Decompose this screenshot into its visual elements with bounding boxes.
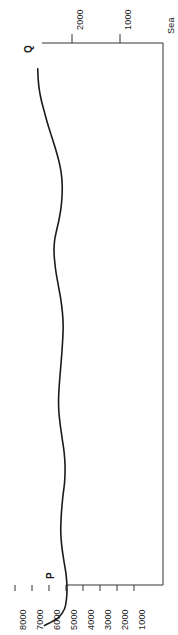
bottom-axis-label-5000: 5000 bbox=[70, 609, 79, 630]
bottom-axis bbox=[15, 585, 163, 591]
plot-canvas bbox=[0, 0, 178, 635]
sea-level-axis-label: Sea level bbox=[159, 2, 178, 36]
sea-level-label-line1: Sea bbox=[167, 17, 176, 34]
top-axis-label-2000: 2000 bbox=[76, 9, 85, 30]
bottom-axis-label-4000: 4000 bbox=[87, 609, 96, 630]
bottom-axis-label-6000: 6000 bbox=[53, 609, 62, 630]
bottom-axis-label-8000: 8000 bbox=[19, 609, 28, 630]
bottom-axis-label-1000: 1000 bbox=[138, 609, 147, 630]
bottom-axis-label-2000: 2000 bbox=[121, 609, 130, 630]
sea-level-curve-figure: 2000 1000 Sea level Q P 8000 7000 6000 5… bbox=[0, 0, 178, 635]
annotation-marker-q: Q bbox=[24, 45, 34, 53]
bottom-axis-label-7000: 7000 bbox=[36, 609, 45, 630]
bottom-axis-label-3000: 3000 bbox=[104, 609, 113, 630]
top-axis bbox=[42, 34, 163, 43]
top-axis-label-1000: 1000 bbox=[124, 9, 133, 30]
annotation-marker-p: P bbox=[46, 572, 56, 579]
sea-level-curve-path bbox=[38, 69, 67, 626]
